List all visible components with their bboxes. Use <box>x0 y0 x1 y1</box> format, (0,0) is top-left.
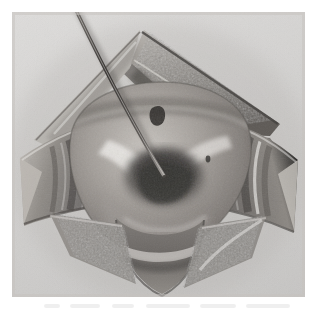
surgical-illustration-plate <box>12 12 305 297</box>
illustration-page <box>0 0 315 318</box>
plate-contents <box>12 12 305 297</box>
figure-caption <box>40 303 290 310</box>
halftone-grain <box>12 12 305 297</box>
illustration-canvas <box>12 12 305 297</box>
